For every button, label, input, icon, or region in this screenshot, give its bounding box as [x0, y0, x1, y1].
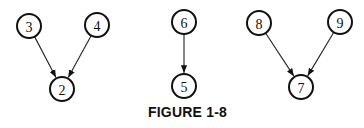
node-label: 6: [181, 16, 188, 31]
edge-8-to-7: [266, 33, 294, 76]
node-label: 3: [26, 20, 33, 35]
node-label: 2: [59, 83, 66, 98]
node-2: 2: [50, 77, 74, 101]
node-3: 3: [17, 14, 41, 38]
node-6: 6: [172, 10, 196, 34]
edge-9-to-7: [308, 32, 334, 76]
node-label: 5: [181, 80, 188, 95]
node-8: 8: [247, 11, 271, 35]
figure: 34265897 FIGURE 1-8: [0, 0, 364, 128]
node-label: 9: [337, 16, 344, 31]
edge-4-to-2: [68, 36, 91, 78]
node-label: 7: [298, 81, 305, 96]
node-4: 4: [85, 13, 109, 37]
node-7: 7: [289, 75, 313, 99]
node-9: 9: [328, 10, 352, 34]
node-label: 8: [256, 17, 263, 32]
figure-caption: FIGURE 1-8: [148, 104, 227, 120]
node-label: 4: [94, 19, 101, 34]
edge-3-to-2: [35, 37, 56, 78]
edges: [35, 32, 334, 77]
node-5: 5: [172, 74, 196, 98]
